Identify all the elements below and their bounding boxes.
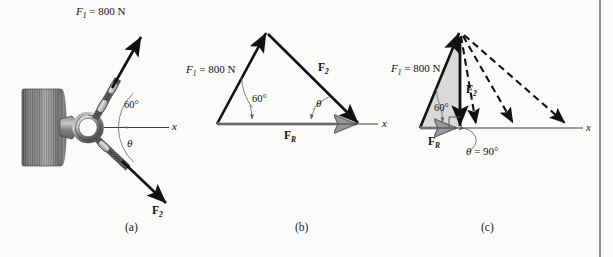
panel-c-angle-60-label: 60°	[434, 103, 449, 114]
panel-b-resultant-label: FR	[284, 130, 296, 144]
figure-canvas	[0, 0, 613, 257]
panel-b-x-axis-label: x	[382, 118, 387, 129]
alt-F2-dashed-2	[463, 36, 513, 123]
force-F1-arrow-a	[112, 37, 141, 88]
panel-c-graphics	[420, 33, 583, 150]
panel-a-force2-label: F2	[152, 205, 163, 219]
panel-a-force1-label: F1 = 800 N	[76, 6, 125, 20]
panel-a-graphics	[22, 37, 169, 203]
panel-a-angle-theta-label: θ	[127, 138, 132, 149]
alt-F2-dashed-1	[461, 36, 476, 124]
panel-c-x-axis-label: x	[586, 122, 591, 133]
panel-c-theta-label: θ = 90°	[466, 146, 499, 157]
force-F2-arrow-a	[122, 161, 166, 203]
panel-c-caption: (c)	[481, 222, 494, 234]
panel-a-caption: (a)	[125, 222, 138, 234]
panel-b-angle-theta-label: θ	[316, 98, 321, 109]
panel-c-resultant-label: FR	[428, 136, 440, 150]
panel-b-force2-label: F2	[318, 62, 329, 76]
panel-c-force2-label: F2	[466, 84, 477, 98]
panel-a-angle-60-label: 60°	[124, 100, 139, 111]
cable-upper	[95, 79, 119, 119]
alt-F2-dashed-3	[464, 35, 565, 123]
mechanics-figure: F1 = 800 N F2 60° θ x (a) F1 = 800 N F2 …	[0, 0, 613, 257]
angle-theta-leader-b	[311, 108, 315, 119]
angle-60-arc-b	[242, 78, 253, 108]
panel-b-graphics	[217, 33, 378, 124]
force-F2-arrow-b	[268, 34, 358, 123]
panel-a-x-axis-label: x	[172, 121, 177, 132]
panel-b-caption: (b)	[295, 222, 308, 234]
panel-b-angle-60-label: 60°	[252, 94, 267, 105]
panel-b-force1-label: F1 = 800 N	[186, 64, 235, 78]
panel-c-force1-label: F1 = 800 N	[391, 63, 440, 77]
page-gutter-rule	[599, 0, 601, 257]
